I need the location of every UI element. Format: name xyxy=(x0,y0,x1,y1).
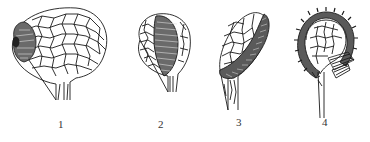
panel-3-sporangium: 3 xyxy=(214,0,274,142)
sporangium-3-drawing xyxy=(214,0,274,114)
panel-2-sporangium: 2 xyxy=(126,0,196,142)
annulus-ring xyxy=(220,14,269,79)
sporangium-2-drawing xyxy=(126,0,196,110)
sporangium-4-drawing xyxy=(292,0,362,122)
panel-2-label: 2 xyxy=(158,118,164,130)
panel-1-sporangium: 1 xyxy=(6,0,110,142)
panel-4-label: 4 xyxy=(322,116,328,128)
panel-1-label: 1 xyxy=(58,118,64,130)
annulus-cap xyxy=(13,22,36,62)
panel-4-sporangium: 4 xyxy=(292,0,362,142)
panel-3-label: 3 xyxy=(236,116,242,128)
sporangia-figure: 1 2 xyxy=(0,0,370,142)
sporangium-1-drawing xyxy=(6,0,110,110)
